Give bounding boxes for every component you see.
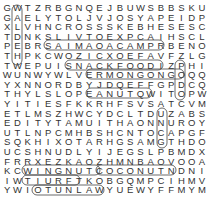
letter-cell[interactable]: W — [94, 185, 104, 195]
letter-cell[interactable]: Y — [187, 185, 197, 195]
letter-cell[interactable]: N — [64, 185, 74, 195]
letter-cell[interactable]: F — [156, 185, 166, 195]
letter-cell[interactable]: Y — [105, 185, 115, 195]
letter-cell[interactable]: O — [33, 185, 43, 195]
letter-cell[interactable]: U — [115, 185, 125, 195]
letter-cell[interactable]: W — [135, 185, 145, 195]
letter-cell[interactable]: L — [74, 185, 84, 195]
letter-cell[interactable]: M — [197, 185, 207, 195]
letter-cell[interactable]: M — [176, 185, 186, 195]
letter-cell[interactable]: E — [125, 185, 135, 195]
letter-cell[interactable]: W — [12, 185, 22, 195]
letter-cell[interactable]: T — [43, 185, 53, 195]
letter-cell[interactable]: A — [84, 185, 94, 195]
word-search-puzzle: GWTZRBGNQEJBUWSBBSKUGAELYTOLJVJOSYAPEIDP… — [0, 0, 208, 211]
letter-cell[interactable]: Y — [146, 185, 156, 195]
letter-grid: GWTZRBGNQEJBUWSBBSKUGAELYTOLJVJOSYAPEIDP… — [2, 3, 207, 195]
letter-cell[interactable]: U — [53, 185, 63, 195]
letter-cell[interactable]: Y — [2, 185, 12, 195]
letter-cell[interactable]: I — [23, 185, 33, 195]
letter-cell[interactable]: F — [166, 185, 176, 195]
